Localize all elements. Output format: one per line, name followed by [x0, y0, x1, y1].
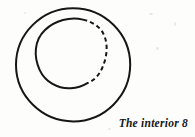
scan-speck: [174, 22, 176, 26]
scan-speck: [156, 47, 159, 50]
figure-container: The interior 8: [0, 0, 195, 137]
scan-speck: [108, 128, 111, 130]
scan-speck: [24, 12, 26, 14]
scan-speck: [149, 13, 153, 15]
topology-figure-canvas: [0, 0, 195, 137]
